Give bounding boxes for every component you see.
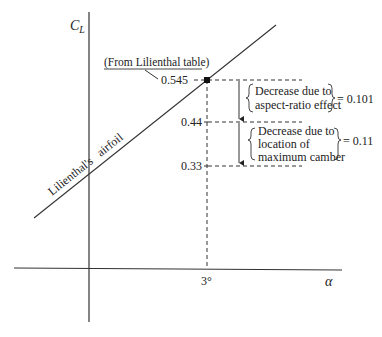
data-point xyxy=(204,77,210,83)
x-axis-label: α xyxy=(325,274,333,289)
annotation-1-value: = 0.101 xyxy=(337,92,374,106)
x-tick-3deg: 3° xyxy=(201,274,212,288)
x-axis xyxy=(14,268,342,270)
source-leader xyxy=(145,70,158,79)
y-axis-label: CL xyxy=(70,18,85,35)
annotation-1-line-1: Decrease due to xyxy=(255,84,332,98)
brace-left-2 xyxy=(248,128,255,160)
annotation-2-line-1: Decrease due to xyxy=(258,124,335,138)
line-label: Lilienthal's airfoil xyxy=(45,130,126,199)
lift-curve-diagram: CL α 3° (From Lilienthal table) 0.545 0.… xyxy=(0,0,382,337)
annotation-2-value: = 0.11 xyxy=(343,134,373,148)
annotation-2-line-2: location of xyxy=(258,137,310,151)
source-note: (From Lilienthal table) xyxy=(104,56,210,69)
annotation-2-line-3: maximum camber xyxy=(258,150,345,164)
level-label-033: 0.33 xyxy=(181,159,202,173)
brace-left-1 xyxy=(246,84,253,112)
level-label-0545: 0.545 xyxy=(161,73,188,87)
level-label-044: 0.44 xyxy=(181,115,202,129)
annotation-1-line-2: aspect-ratio effect xyxy=(255,98,342,112)
